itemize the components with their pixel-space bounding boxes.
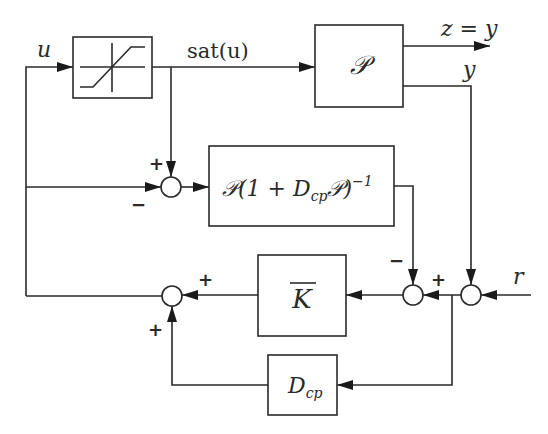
wire-u bbox=[26, 67, 73, 296]
model-label: 𝒫(1 + Dcp𝒫)−1 bbox=[222, 173, 373, 204]
signal-z-label: z = y bbox=[440, 16, 498, 41]
signal-u-label: u bbox=[37, 37, 51, 62]
sign-sum1-top: + bbox=[149, 153, 164, 174]
sign-sum4-right: + bbox=[198, 269, 213, 290]
arrow-dcp-in bbox=[337, 380, 353, 390]
sign-sum4-bottom: + bbox=[148, 319, 163, 340]
arrow-sum4-right bbox=[182, 290, 198, 300]
arrow-model-in bbox=[193, 182, 209, 192]
arrow-p-in bbox=[299, 62, 315, 72]
saturation-block bbox=[73, 37, 152, 98]
dcp-block: Dcp bbox=[268, 355, 337, 415]
arrow-sum2-right bbox=[423, 290, 439, 300]
arrow-z-out bbox=[474, 41, 490, 51]
signal-sat-u-label: sat(u) bbox=[187, 39, 249, 63]
arrow-sum4-bottom bbox=[167, 306, 177, 322]
sign-sum2-right: + bbox=[431, 269, 446, 290]
arrow-sum2-top bbox=[408, 269, 418, 285]
summing-junction-3 bbox=[461, 285, 481, 305]
arrow-sum1-left bbox=[145, 182, 161, 192]
summing-junction-1 bbox=[161, 177, 181, 197]
arrow-sum3-right bbox=[481, 290, 497, 300]
arrow-sum1-top bbox=[166, 161, 176, 177]
sign-sum2-top: − bbox=[389, 250, 404, 271]
signal-y-label: y bbox=[462, 57, 476, 82]
arrow-sum3-top bbox=[466, 269, 476, 285]
plant-block: 𝒫 bbox=[315, 25, 403, 107]
wire-dcp-branch bbox=[337, 295, 452, 385]
wire-dcp-sum4 bbox=[172, 306, 268, 385]
summing-junction-2 bbox=[403, 285, 423, 305]
sign-sum1-left: − bbox=[131, 194, 146, 215]
arrow-k-in bbox=[346, 290, 362, 300]
controller-label: K bbox=[291, 284, 313, 314]
signal-r-label: r bbox=[513, 264, 525, 289]
arrow-u-in bbox=[57, 62, 73, 72]
block-diagram: 𝒫 𝒫(1 + Dcp𝒫)−1 K Dcp + − − + + + u sat(… bbox=[0, 0, 548, 434]
summing-junction-4 bbox=[162, 286, 182, 306]
controller-block: K bbox=[258, 255, 346, 336]
model-block: 𝒫(1 + Dcp𝒫)−1 bbox=[209, 146, 394, 226]
